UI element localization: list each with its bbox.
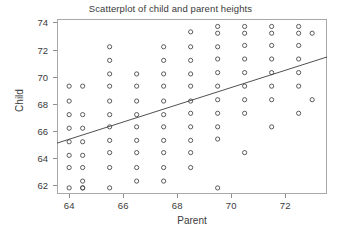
scatter-point xyxy=(216,31,220,35)
scatter-point xyxy=(135,179,139,183)
scatter-point xyxy=(310,31,314,35)
scatter-point xyxy=(216,111,220,115)
scatter-point xyxy=(67,186,71,190)
scatter-point xyxy=(216,137,220,141)
scatter-point xyxy=(108,58,112,62)
plot-data-layer xyxy=(57,19,327,194)
x-tick-mark xyxy=(231,194,232,198)
y-tick-mark xyxy=(53,50,57,51)
regression-trend-line xyxy=(57,57,327,143)
scatter-point xyxy=(189,58,193,62)
scatter-point xyxy=(108,151,112,155)
scatter-point xyxy=(162,165,166,169)
scatter-points-group xyxy=(67,24,314,190)
scatter-point xyxy=(243,111,247,115)
scatter-point xyxy=(270,24,274,28)
scatter-point xyxy=(135,113,139,117)
scatter-point xyxy=(243,31,247,35)
y-tick-mark xyxy=(53,22,57,23)
y-tick-mark xyxy=(53,158,57,159)
x-axis-title: Parent xyxy=(57,215,327,226)
y-tick-label: 72 xyxy=(20,44,48,55)
x-tick-label: 64 xyxy=(64,200,75,211)
scatter-point xyxy=(243,24,247,28)
scatter-point xyxy=(270,125,274,129)
y-tick-mark xyxy=(53,104,57,105)
scatter-point xyxy=(67,126,71,130)
scatter-point xyxy=(162,113,166,117)
scatter-point xyxy=(162,99,166,103)
scatter-point xyxy=(162,138,166,142)
scatter-point xyxy=(81,179,85,183)
scatter-point xyxy=(108,138,112,142)
scatter-point xyxy=(189,111,193,115)
x-tick-label: 68 xyxy=(172,200,183,211)
scatter-point xyxy=(189,151,193,155)
scatter-point xyxy=(108,99,112,103)
scatter-point xyxy=(162,72,166,76)
scatter-point xyxy=(135,72,139,76)
scatter-point xyxy=(216,125,220,129)
scatter-point xyxy=(135,151,139,155)
scatter-point xyxy=(108,165,112,169)
scatter-point xyxy=(243,98,247,102)
scatter-point xyxy=(189,125,193,129)
scatter-point xyxy=(297,24,301,28)
scatter-point xyxy=(189,45,193,49)
scatter-point xyxy=(135,84,139,88)
scatter-point xyxy=(81,186,85,190)
scatter-point xyxy=(270,57,274,61)
x-tick-label: 72 xyxy=(280,200,291,211)
scatter-point xyxy=(108,186,112,190)
scatter-point xyxy=(67,84,71,88)
scatter-point xyxy=(189,72,193,76)
scatter-point xyxy=(135,99,139,103)
x-tick-mark xyxy=(285,194,286,198)
scatter-point xyxy=(81,165,85,169)
scatter-point xyxy=(297,31,301,35)
scatter-point xyxy=(108,45,112,49)
scatter-point xyxy=(81,126,85,130)
scatter-point xyxy=(162,84,166,88)
scatter-point xyxy=(135,138,139,142)
x-tick-mark xyxy=(177,194,178,198)
scatter-point xyxy=(297,70,301,74)
scatter-point xyxy=(243,151,247,155)
x-tick-label: 66 xyxy=(118,200,129,211)
x-tick-mark xyxy=(123,194,124,198)
scatter-point xyxy=(67,99,71,103)
y-axis-title: Child xyxy=(14,71,25,131)
scatter-point xyxy=(81,153,85,157)
scatter-point xyxy=(189,84,193,88)
scatter-point xyxy=(216,186,220,190)
scatter-point xyxy=(108,84,112,88)
scatter-point xyxy=(67,113,71,117)
scatter-point xyxy=(216,45,220,49)
scatter-point xyxy=(243,43,247,47)
scatter-point xyxy=(297,57,301,61)
scatter-point xyxy=(189,30,193,34)
y-tick-mark xyxy=(53,185,57,186)
scatter-point xyxy=(108,72,112,76)
scatter-point xyxy=(81,84,85,88)
scatter-point xyxy=(270,31,274,35)
scatter-point xyxy=(67,153,71,157)
scatter-point xyxy=(216,70,220,74)
scatter-point xyxy=(216,24,220,28)
scatter-point xyxy=(270,98,274,102)
scatter-point xyxy=(216,57,220,61)
scatter-point xyxy=(81,113,85,117)
scatter-point xyxy=(189,165,193,169)
scatter-point xyxy=(243,57,247,61)
scatter-point xyxy=(162,125,166,129)
scatter-point xyxy=(81,140,85,144)
scatter-point xyxy=(189,138,193,142)
scatter-point xyxy=(243,70,247,74)
y-tick-label: 62 xyxy=(20,180,48,191)
scatter-point xyxy=(67,140,71,144)
y-tick-mark xyxy=(53,131,57,132)
scatter-point xyxy=(216,84,220,88)
scatter-point xyxy=(297,111,301,115)
scatter-point xyxy=(162,45,166,49)
scatter-point xyxy=(270,84,274,88)
